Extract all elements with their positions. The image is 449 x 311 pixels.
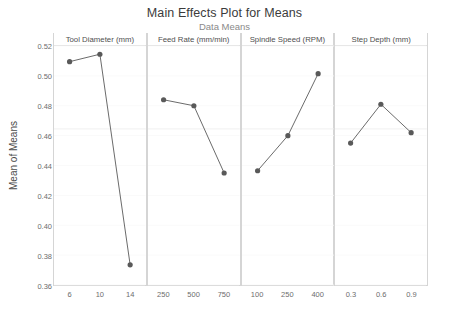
panel-header: Spindle Speed (RPM) — [242, 33, 334, 46]
x-axis-tick: 500 — [187, 290, 200, 299]
x-axis-tick: 0.9 — [406, 290, 416, 299]
y-axis-ticks: 0.360.380.400.420.440.460.480.500.52 — [14, 0, 52, 311]
x-axis-ticks: 0.30.60.9 — [335, 287, 427, 303]
panel-plot-area — [54, 46, 146, 286]
panel-2: Feed Rate (mm/min)250500750 — [147, 33, 241, 286]
x-axis-ticks: 250500750 — [148, 287, 240, 303]
chart-subtitle: Data Means — [0, 21, 449, 32]
y-axis-tick: 0.42 — [18, 192, 52, 201]
panel-header: Tool Diameter (mm) — [54, 33, 146, 46]
y-axis-tick: 0.48 — [18, 102, 52, 111]
x-axis-tick: 750 — [218, 290, 231, 299]
y-axis-tick: 0.52 — [18, 42, 52, 51]
panel-plot-area — [148, 46, 240, 286]
x-axis-ticks: 100250400 — [242, 287, 334, 303]
panel-container: Tool Diameter (mm)61014Feed Rate (mm/min… — [53, 33, 428, 286]
y-axis-tick: 0.38 — [18, 252, 52, 261]
chart-title: Main Effects Plot for Means — [0, 6, 449, 20]
panel-plot-area — [242, 46, 334, 286]
y-axis-tick: 0.46 — [18, 132, 52, 141]
x-axis-tick: 400 — [311, 290, 324, 299]
x-axis-tick: 0.3 — [346, 290, 356, 299]
panel-plot-area — [335, 46, 427, 286]
x-axis-tick: 0.6 — [376, 290, 386, 299]
y-axis-tick: 0.44 — [18, 162, 52, 171]
x-axis-tick: 10 — [96, 290, 104, 299]
x-axis-tick: 14 — [126, 290, 134, 299]
x-axis-ticks: 61014 — [54, 287, 146, 303]
panel-header: Feed Rate (mm/min) — [148, 33, 240, 46]
x-axis-tick: 250 — [281, 290, 294, 299]
y-axis-tick: 0.40 — [18, 222, 52, 231]
main-effects-chart: Main Effects Plot for Means Data Means M… — [0, 0, 449, 311]
x-axis-tick: 250 — [157, 290, 170, 299]
y-axis-tick: 0.36 — [18, 282, 52, 291]
x-axis-tick: 100 — [251, 290, 264, 299]
x-axis-tick: 6 — [68, 290, 72, 299]
panel-header: Step Depth (mm) — [335, 33, 427, 46]
panel-1: Tool Diameter (mm)61014 — [53, 33, 147, 286]
panel-4: Step Depth (mm)0.30.60.9 — [334, 33, 428, 286]
panel-3: Spindle Speed (RPM)100250400 — [241, 33, 335, 286]
y-axis-tick: 0.50 — [18, 72, 52, 81]
